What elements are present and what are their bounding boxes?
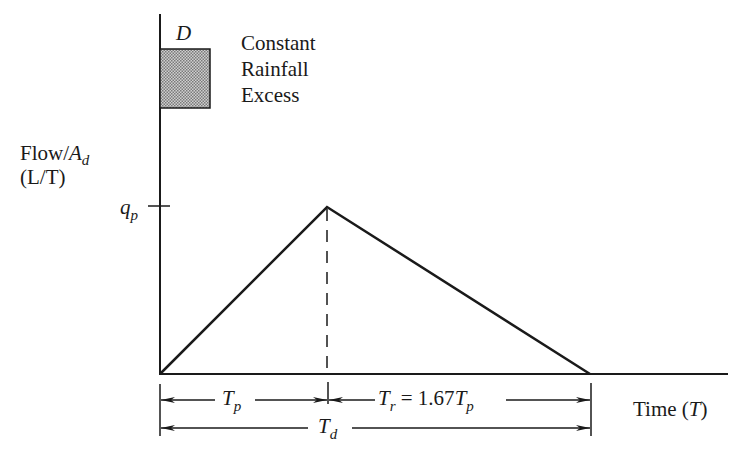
hydrograph-line (160, 207, 590, 374)
unit-hydrograph-diagram: D Constant Rainfall Excess Flow/Ad (L/T)… (0, 0, 745, 471)
rainfall-caption: Constant Rainfall Excess (241, 31, 321, 107)
peak-flow-label: qp (120, 195, 139, 223)
td-label: Td (318, 414, 338, 442)
duration-label: D (175, 21, 191, 45)
y-axis-label: Flow/Ad (20, 141, 90, 168)
y-axis-units: (L/T) (20, 165, 65, 189)
rainfall-excess-block (160, 49, 210, 108)
tp-label: Tp (222, 386, 242, 414)
tr-label: Tr = 1.67Tp (378, 386, 474, 414)
x-axis-label: Time (T) (633, 397, 708, 421)
